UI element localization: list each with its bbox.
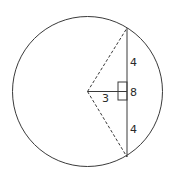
label-upper-half: 4	[130, 56, 137, 69]
label-distance: 3	[102, 92, 109, 105]
label-lower-half: 4	[130, 123, 137, 136]
circle-chord-diagram: 4 8 3 4	[0, 0, 173, 179]
label-chord-total: 8	[130, 86, 137, 99]
